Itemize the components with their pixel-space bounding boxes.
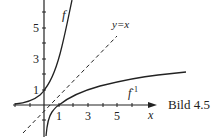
- curve-f-inverse: [46, 72, 186, 136]
- x-tick-5: 5: [114, 110, 120, 122]
- y-tick-5: 5: [33, 22, 39, 34]
- figure-caption: Bild 4.5: [168, 97, 210, 113]
- identity-line-label: y=x: [112, 18, 129, 30]
- curve-f-label: f: [62, 9, 66, 21]
- x-tick-1: 1: [56, 110, 62, 122]
- y-tick-3: 3: [33, 53, 39, 65]
- curve-f-inverse-label-sup: -1: [131, 85, 138, 94]
- x-tick-3: 3: [85, 110, 91, 122]
- curve-f-inverse-label: f-1: [128, 84, 138, 99]
- x-axis-label: x: [148, 109, 153, 121]
- y-tick-1: 1: [33, 84, 39, 96]
